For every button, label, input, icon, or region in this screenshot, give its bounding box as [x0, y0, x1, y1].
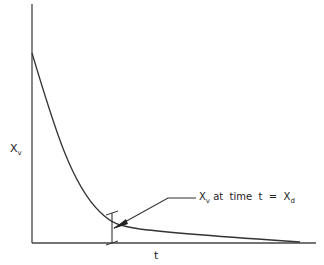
- arrowhead-icon: [113, 219, 128, 229]
- x-axis-label: t: [154, 250, 158, 261]
- annotation-prefix-subscript: v: [206, 197, 210, 205]
- y-axis-label-main: X: [10, 142, 18, 155]
- annotation-prefix: X: [199, 191, 206, 202]
- x-axis-label-text: t: [154, 249, 158, 262]
- y-axis-label: Xv: [10, 143, 22, 154]
- annotation-suffix-subscript: d: [290, 197, 294, 205]
- decay-curve: [32, 53, 300, 242]
- y-axis-label-subscript: v: [18, 149, 22, 157]
- annotation-label: Xv at time t = Xd: [199, 192, 295, 202]
- annotation-text: at time t = X: [210, 191, 290, 202]
- decay-diagram: [0, 0, 324, 265]
